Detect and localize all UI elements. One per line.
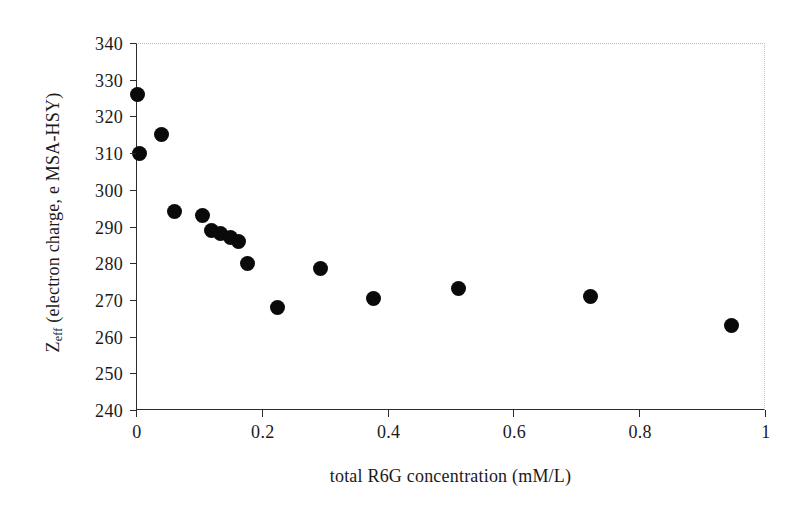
data-point [366, 291, 381, 306]
y-axis-tick: 290 [130, 227, 136, 228]
y-axis-title: Zeff (electron charge, e MSA-HSY) [43, 58, 64, 388]
x-axis-tick: 0.8 [639, 410, 640, 417]
x-axis-tick: 0.2 [262, 410, 263, 417]
x-axis: 00.20.40.60.81 [136, 410, 765, 450]
y-axis-title-subscript: eff [51, 328, 65, 342]
x-axis-tick-label: 1 [761, 422, 770, 443]
plot-area [136, 43, 765, 410]
y-axis-tick: 310 [130, 153, 136, 154]
data-point [240, 256, 255, 271]
data-point [130, 87, 145, 102]
data-point [154, 127, 169, 142]
data-point [313, 261, 328, 276]
data-point [451, 281, 466, 296]
data-point [724, 318, 739, 333]
y-axis-tick: 250 [130, 373, 136, 374]
scatter-chart-figure: 240250260270280290300310320330340 00.20.… [0, 0, 809, 517]
data-point [167, 204, 182, 219]
x-axis-tick-label: 0.2 [251, 422, 274, 443]
y-axis-tick: 320 [130, 116, 136, 117]
x-axis-title: total R6G concentration (mM/L) [136, 466, 765, 487]
y-axis-tick: 280 [130, 263, 136, 264]
y-axis-tick: 300 [130, 190, 136, 191]
data-point [195, 208, 210, 223]
data-point [231, 234, 246, 249]
x-axis-tick: 0 [136, 410, 137, 417]
x-axis-tick-label: 0.4 [377, 422, 400, 443]
y-axis-tick: 330 [130, 80, 136, 81]
x-axis-tick-label: 0.6 [503, 422, 526, 443]
y-axis-tick: 260 [130, 337, 136, 338]
y-axis-title-units: (electron charge, e MSA-HSY) [43, 93, 63, 323]
x-axis-tick: 0.4 [388, 410, 389, 417]
x-axis-tick: 1 [765, 410, 766, 417]
y-axis-title-symbol: Z [43, 341, 63, 352]
y-axis-title-wrap: Zeff (electron charge, e MSA-HSY) [0, 0, 100, 460]
x-axis-tick-label: 0 [132, 422, 141, 443]
x-axis-tick-label: 0.8 [628, 422, 651, 443]
y-axis-tick: 340 [130, 43, 136, 44]
y-axis-tick: 270 [130, 300, 136, 301]
x-axis-tick: 0.6 [513, 410, 514, 417]
data-point [270, 300, 285, 315]
data-point [583, 289, 598, 304]
